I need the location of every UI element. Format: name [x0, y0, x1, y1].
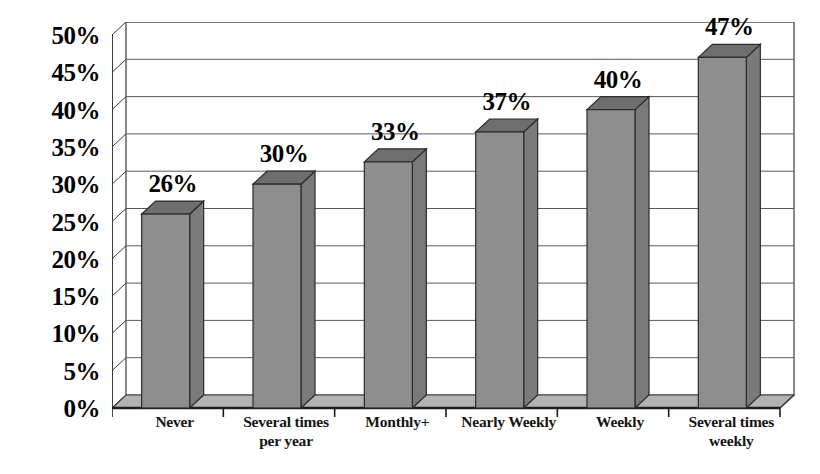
- y-axis-tick-label: 5%: [14, 359, 100, 384]
- y-axis-tick-label: 10%: [14, 321, 100, 346]
- y-axis-tick-connector: [112, 320, 126, 333]
- y-axis-tick-connector: [112, 59, 126, 72]
- y-axis-tick-label: 30%: [14, 172, 100, 197]
- bar-1: [142, 201, 204, 408]
- y-axis-tick-connector: [112, 171, 126, 184]
- bar-5: [587, 97, 649, 408]
- y-axis-tick-label: 40%: [14, 98, 100, 123]
- x-axis-category-label-line: per year: [211, 431, 361, 450]
- plot-area: [112, 22, 808, 422]
- bar-side-face: [635, 97, 649, 408]
- bar-value-label: 40%: [573, 67, 663, 92]
- bar-front-face: [587, 110, 635, 408]
- bar-value-label: 37%: [462, 89, 552, 114]
- bar-6: [698, 44, 760, 408]
- bar-front-face: [142, 214, 190, 408]
- x-axis-category-label: Several timesweekly: [656, 412, 806, 451]
- y-axis-tick-label: 0%: [14, 396, 100, 421]
- y-axis-tick-label: 45%: [14, 60, 100, 85]
- bar-value-label: 33%: [350, 119, 440, 144]
- y-axis-tick-label: 35%: [14, 135, 100, 160]
- bar-front-face: [364, 162, 412, 408]
- bar-2: [253, 171, 315, 408]
- plot-graphics: [112, 22, 808, 422]
- y-axis-tick-label: 15%: [14, 284, 100, 309]
- bar-value-label: 47%: [684, 14, 774, 39]
- bar-side-face: [190, 201, 204, 408]
- bar-side-face: [746, 44, 760, 408]
- bar-side-face: [412, 149, 426, 408]
- bar-side-face: [524, 119, 538, 408]
- bar-3: [364, 149, 426, 408]
- y-axis-tick-label: 20%: [14, 247, 100, 272]
- chart-floor: [112, 395, 794, 408]
- y-axis-tick-connector: [112, 246, 126, 259]
- y-axis-tick-connector: [112, 209, 126, 222]
- bar-value-label: 26%: [128, 171, 218, 196]
- y-axis-tick-connector: [112, 97, 126, 110]
- bar-chart: 50%45%40%35%30%25%20%15%10%5%0% 26%30%33…: [0, 0, 820, 474]
- bar-4: [476, 119, 538, 408]
- x-axis-category-label-line: weekly: [656, 431, 806, 450]
- y-axis-tick-connector: [112, 134, 126, 147]
- x-axis-category-labels: NeverSeveral timesper yearMonthly+Nearly…: [112, 412, 812, 474]
- y-axis-tick-label: 50%: [14, 23, 100, 48]
- bar-front-face: [476, 132, 524, 408]
- bar-value-label: 30%: [239, 141, 329, 166]
- y-axis-tick-label: 25%: [14, 210, 100, 235]
- bar-front-face: [253, 184, 301, 408]
- bar-side-face: [301, 171, 315, 408]
- x-axis-category-label-line: Several times: [656, 412, 806, 431]
- y-axis-tick-connector: [112, 283, 126, 296]
- y-axis-tick-labels: 50%45%40%35%30%25%20%15%10%5%0%: [6, 0, 100, 474]
- y-axis-tick-connector: [112, 22, 126, 35]
- bar-front-face: [698, 57, 746, 408]
- y-axis-tick-connector: [112, 358, 126, 371]
